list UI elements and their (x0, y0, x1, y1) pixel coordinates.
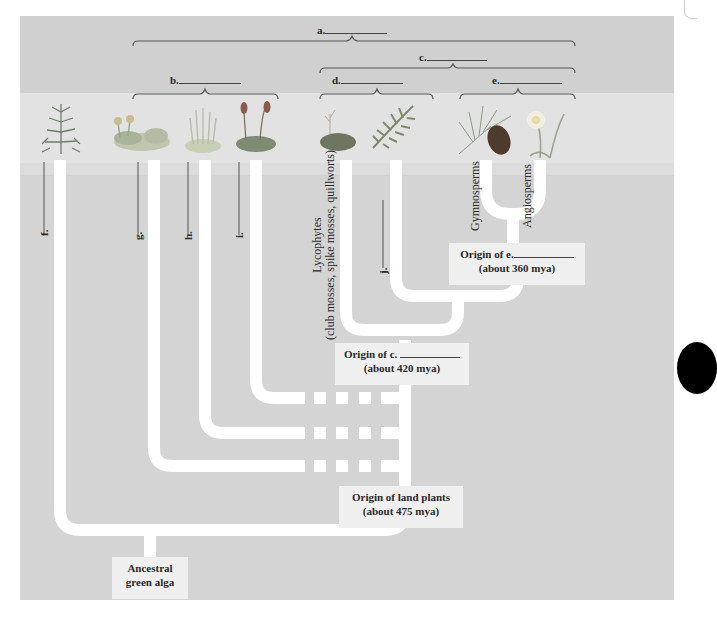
tip-label-gymnosperms: Gymnosperms (469, 156, 482, 236)
node-box-ancestral-alga: Ancestral green alga (112, 557, 188, 599)
blank-b[interactable] (179, 74, 241, 84)
branch-mosses (256, 160, 305, 398)
branch-liverworts (154, 160, 305, 466)
bracket-label-d: d. (332, 74, 403, 86)
tip-label-j[interactable]: j. (377, 268, 389, 274)
blank-a[interactable] (325, 24, 387, 34)
daffodil-icon (520, 100, 570, 160)
bracket-d (320, 89, 433, 99)
tip-label-i[interactable]: i. (233, 232, 245, 238)
tip-label-f[interactable]: f. (38, 230, 50, 236)
tip-label-lycophytes: Lycophytes (club mosses, spike mosses, q… (311, 150, 337, 340)
tip-label-angiosperms: Angiosperms (521, 156, 534, 236)
bracket-label-c: c. (419, 51, 487, 63)
dashed-branch-segments (314, 380, 411, 500)
moss-icon (232, 96, 280, 154)
bracket-a (133, 36, 575, 46)
charophyte-alga-icon (36, 98, 86, 156)
blank-node-e[interactable] (514, 248, 574, 258)
page-corner-mark (684, 0, 697, 19)
blank-d[interactable] (341, 74, 403, 84)
node-box-vascular-plants: Origin of c. (about 420 mya) (335, 343, 469, 385)
blank-c[interactable] (427, 51, 487, 61)
tip-label-h[interactable]: h. (182, 231, 194, 240)
clade-brackets (133, 36, 575, 99)
node-box-seed-plants: Origin of e. (about 360 mya) (449, 243, 585, 285)
bracket-label-b: b. (170, 74, 241, 86)
tip-label-g[interactable]: g. (132, 232, 144, 240)
bracket-e (460, 89, 575, 99)
bracket-c (320, 64, 575, 73)
pine-cone-icon (455, 102, 517, 158)
blank-node-c[interactable] (400, 348, 460, 358)
blank-e[interactable] (500, 74, 562, 84)
bracket-label-e: e. (492, 74, 562, 86)
liverwort-icon (106, 112, 172, 154)
bracket-label-a: a. (317, 24, 387, 36)
club-moss-icon (316, 100, 360, 154)
node-box-land-plants: Origin of land plants (about 475 mya) (339, 486, 463, 528)
binder-hole (677, 342, 717, 394)
hornwort-icon (182, 104, 224, 154)
fern-icon (365, 100, 421, 156)
